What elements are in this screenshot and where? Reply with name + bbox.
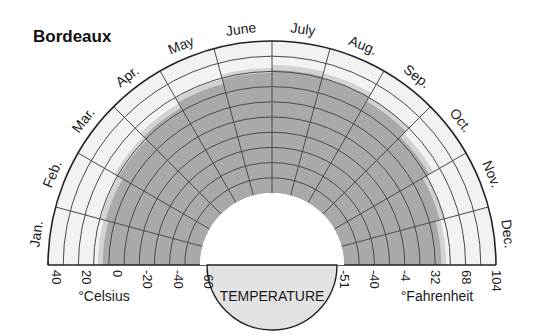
celsius-tick: -40 [171, 270, 186, 289]
month-label: Feb. [39, 158, 65, 190]
celsius-tick: 0 [110, 270, 125, 277]
celsius-tick: -60 [201, 270, 216, 289]
month-label: July [290, 19, 317, 38]
fahrenheit-tick: 32 [428, 270, 443, 284]
celsius-tick: 20 [79, 270, 94, 284]
fahrenheit-label: °Fahrenheit [401, 288, 474, 304]
chart-title: Bordeaux [33, 27, 112, 46]
x-axis-label: TEMPERATURE [220, 288, 325, 304]
fahrenheit-tick: 68 [459, 270, 474, 284]
fahrenheit-tick: -40 [367, 270, 382, 289]
month-label: Aug. [347, 32, 380, 58]
celsius-tick: -20 [140, 270, 155, 289]
month-label: Nov. [479, 158, 504, 190]
fahrenheit-tick: -51 [337, 270, 352, 289]
celsius-label: °Celsius [78, 288, 130, 304]
celsius-tick: 40 [49, 270, 64, 284]
polar-temperature-chart: Jan.Feb.Mar.Apr.MayJuneJulyAug.Sep.Oct.N… [0, 0, 546, 336]
month-label: June [225, 19, 257, 39]
month-label: Dec. [498, 219, 518, 250]
month-label: May [166, 33, 197, 58]
fahrenheit-tick: -4 [398, 270, 413, 282]
fahrenheit-tick: 104 [489, 270, 504, 292]
month-label: Jan. [26, 220, 45, 248]
